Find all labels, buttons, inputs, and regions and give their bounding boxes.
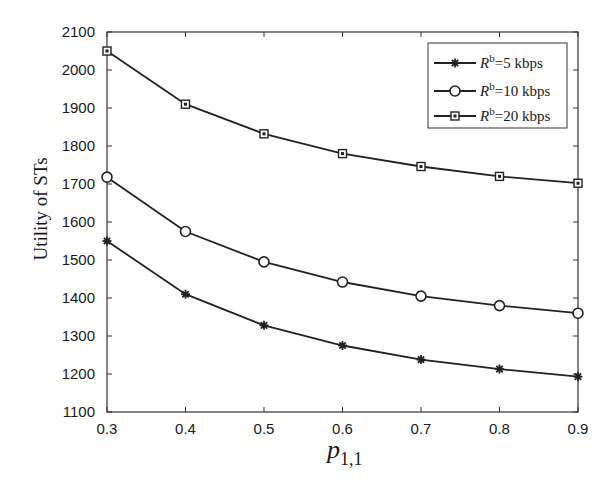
star-marker <box>181 290 190 299</box>
square-marker-dot <box>106 50 109 53</box>
square-marker-dot <box>454 115 457 118</box>
x-tick-label: 0.9 <box>568 420 589 437</box>
star-marker <box>417 355 426 364</box>
x-tick-label: 0.5 <box>254 420 275 437</box>
x-tick-label: 0.7 <box>411 420 432 437</box>
y-tick-label: 1800 <box>62 137 95 154</box>
legend: Rb=5 kbpsRb=10 kbpsRb=20 kbps <box>428 43 567 128</box>
y-tick-label: 1300 <box>62 327 95 344</box>
square-marker-dot <box>577 182 580 185</box>
star-marker <box>338 341 347 350</box>
y-tick-label: 2100 <box>62 23 95 40</box>
legend-label: Rb=5 kbps <box>479 52 543 71</box>
star-marker <box>495 365 504 374</box>
star-marker <box>103 237 112 246</box>
y-tick-label: 1500 <box>62 251 95 268</box>
x-axis-label-subscript: 1,1 <box>340 449 363 469</box>
circle-marker <box>338 277 348 287</box>
square-marker-dot <box>341 152 344 155</box>
star-marker <box>451 59 460 68</box>
circle-marker <box>495 301 505 311</box>
x-tick-label: 0.8 <box>489 420 510 437</box>
y-tick-label: 1700 <box>62 175 95 192</box>
square-marker-dot <box>263 132 266 135</box>
circle-marker <box>259 257 269 267</box>
circle-marker <box>102 172 112 182</box>
square-marker-dot <box>498 175 501 178</box>
x-tick-label: 0.4 <box>175 420 196 437</box>
series-circle <box>102 172 583 318</box>
square-marker-dot <box>184 103 187 106</box>
circle-marker <box>181 227 191 237</box>
circle-marker <box>450 86 460 96</box>
y-axis-label: Utility of STs <box>30 157 51 260</box>
y-tick-label: 1100 <box>63 403 95 420</box>
y-tick-label: 1900 <box>62 99 95 116</box>
y-tick-label: 1200 <box>62 365 95 382</box>
y-tick-label: 1600 <box>62 213 95 230</box>
x-axis-label: p1,1 <box>325 435 363 469</box>
circle-marker <box>416 291 426 301</box>
square-marker-dot <box>420 165 423 168</box>
series-star <box>103 237 583 382</box>
series-line <box>107 177 578 313</box>
star-marker <box>260 321 269 330</box>
x-axis-label-main: p <box>325 435 340 464</box>
y-tick-label: 1400 <box>62 289 95 306</box>
x-tick-label: 0.3 <box>97 420 118 437</box>
star-marker <box>574 372 583 381</box>
y-tick-label: 2000 <box>62 61 95 78</box>
circle-marker <box>573 308 583 318</box>
series-line <box>107 241 578 377</box>
line-chart: 1100120013001400150016001700180019002000… <box>0 0 611 490</box>
